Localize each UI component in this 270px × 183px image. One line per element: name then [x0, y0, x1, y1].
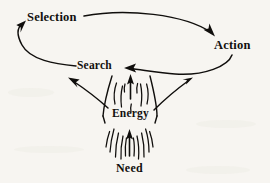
arrowhead-search	[124, 64, 136, 73]
branch-arrow-to-selection	[68, 78, 108, 109]
branch-arrow-to-action	[154, 78, 193, 111]
node-label-search: Search	[77, 60, 112, 72]
diagram-canvas	[0, 0, 270, 183]
arc-search-to-selection	[16, 21, 76, 67]
arc-selection-to-action	[84, 13, 215, 37]
up-arrow-need-to-energy	[126, 129, 133, 156]
node-label-energy: Energy	[112, 108, 149, 120]
up-arrow-energy-to-search	[127, 74, 134, 99]
arrowhead-branch-left	[68, 78, 80, 88]
node-label-need: Need	[116, 162, 143, 174]
arrowhead-action	[204, 24, 216, 37]
node-label-action: Action	[214, 39, 251, 52]
node-label-selection: Selection	[27, 11, 77, 24]
arc-action-to-search	[124, 55, 232, 74]
energy-cycle-diagram: Selection Action Search Energy Need	[0, 0, 270, 183]
